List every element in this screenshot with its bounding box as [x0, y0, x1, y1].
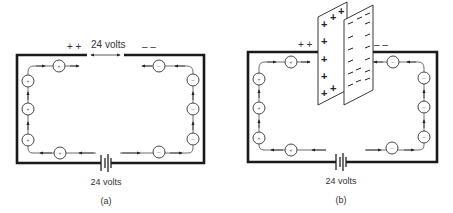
gap-voltage-label: 24 volts	[91, 39, 125, 50]
svg-text:+: +	[27, 106, 30, 112]
battery-voltage-label: 24 volts	[325, 176, 357, 186]
svg-text:+: +	[321, 87, 327, 99]
positive-charge-path	[28, 66, 96, 153]
caption-b: (b)	[336, 195, 347, 205]
capacitor-diagram: + + + + + – – – – – + + 24 volts – – 24 …	[0, 0, 453, 213]
svg-text:+: +	[258, 76, 261, 82]
svg-text:+: +	[58, 63, 61, 69]
svg-text:–: –	[423, 75, 426, 81]
panel-b: + + + + + – – – – – + + + + + + + +	[248, 2, 437, 205]
svg-text:–: –	[158, 63, 161, 69]
panel-a: + + + + + – – – – – + + 24 volts – – 24 …	[17, 39, 204, 206]
right-terminal-signs: – –	[374, 39, 388, 50]
svg-text:–: –	[192, 77, 195, 83]
capacitor-plates-icon: + + + + + + + +	[318, 2, 373, 105]
svg-text:+: +	[290, 147, 293, 153]
svg-text:–: –	[158, 149, 161, 155]
svg-text:+: +	[27, 137, 30, 143]
negative-charge-path	[365, 62, 424, 150]
negative-plate	[344, 5, 373, 105]
negative-charges: – – – – –	[153, 60, 199, 158]
svg-text:+: +	[321, 53, 327, 65]
negative-charge-path	[120, 66, 193, 153]
left-terminal-signs: + +	[298, 39, 313, 50]
svg-text:+: +	[321, 18, 327, 30]
svg-text:+: +	[59, 150, 62, 156]
left-terminal-signs: + +	[67, 41, 82, 52]
svg-text:+: +	[330, 82, 336, 94]
caption-a: (a)	[101, 196, 112, 206]
svg-text:–: –	[391, 145, 394, 151]
positive-charges: + + + + +	[22, 60, 66, 159]
svg-text:+: +	[321, 70, 327, 82]
negative-charges: – – – – –	[386, 56, 430, 154]
svg-text:–: –	[423, 134, 426, 140]
svg-text:–: –	[392, 59, 395, 65]
svg-text:+: +	[338, 5, 344, 17]
battery-icon	[101, 154, 111, 172]
battery-icon	[336, 153, 346, 171]
positive-charge-path	[259, 62, 326, 150]
svg-text:+: +	[290, 59, 293, 65]
svg-text:–: –	[423, 104, 426, 110]
battery-voltage-label: 24 volts	[90, 177, 122, 187]
positive-charges: + + + + +	[253, 56, 297, 156]
right-terminal-signs: – –	[142, 41, 156, 52]
svg-text:+: +	[330, 11, 336, 23]
svg-text:–: –	[192, 136, 195, 142]
svg-text:+: +	[258, 135, 261, 141]
svg-text:+: +	[321, 35, 327, 47]
svg-text:+: +	[258, 105, 261, 111]
svg-text:+: +	[27, 78, 30, 84]
svg-text:–: –	[192, 106, 195, 112]
